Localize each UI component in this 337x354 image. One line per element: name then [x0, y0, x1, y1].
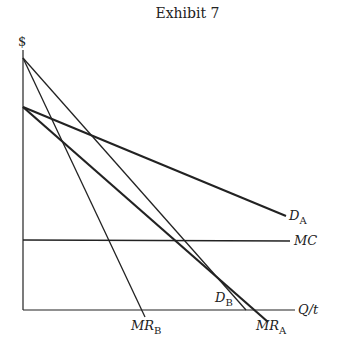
y-axis-label: $ — [18, 34, 26, 49]
demand-b-label: DB — [215, 290, 233, 308]
mc-line — [23, 240, 290, 241]
demand-b-line — [23, 58, 246, 310]
mc-label: MC — [294, 233, 317, 248]
demand-a-label: DA — [289, 208, 307, 226]
demand-a-line — [23, 107, 286, 216]
diagram-canvas — [0, 0, 337, 354]
mr-b-label: MRB — [131, 318, 161, 336]
mr-b-line — [23, 58, 145, 317]
mr-a-label: MRA — [256, 318, 286, 336]
x-axis-label: Q/t — [298, 302, 318, 317]
